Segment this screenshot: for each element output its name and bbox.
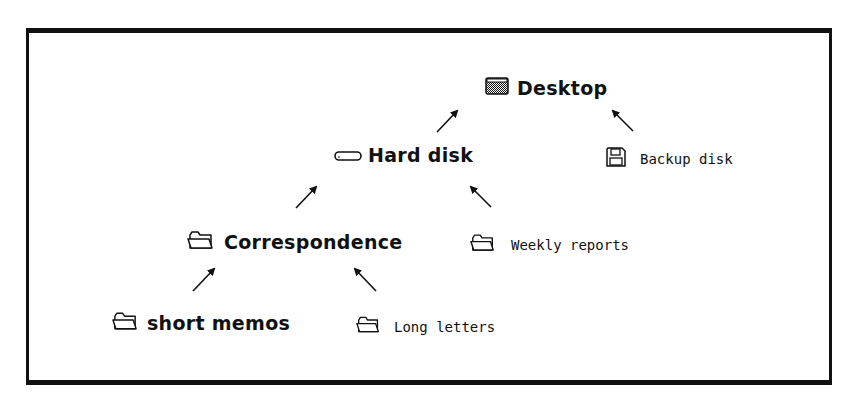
floppy-disk-icon — [606, 147, 626, 171]
node-correspondence[interactable]: Correspondence — [187, 231, 402, 253]
desktop-icon — [485, 77, 509, 99]
node-weekly-reports[interactable]: Weekly reports — [470, 234, 629, 255]
node-backup-disk[interactable]: Backup disk — [606, 147, 733, 171]
hard-disk-icon — [334, 146, 362, 165]
node-desktop[interactable]: Desktop — [485, 77, 607, 99]
node-label: Weekly reports — [511, 238, 629, 252]
node-long-letters[interactable]: Long letters — [356, 316, 495, 337]
node-label: short memos — [147, 314, 290, 333]
folder-icon — [187, 231, 215, 253]
node-label: Desktop — [517, 79, 607, 98]
node-label: Hard disk — [368, 146, 473, 165]
folder-icon — [470, 234, 496, 255]
node-label: Backup disk — [640, 152, 733, 166]
node-short-memos[interactable]: short memos — [112, 312, 290, 334]
node-hard-disk[interactable]: Hard disk — [334, 146, 473, 165]
node-label: Long letters — [394, 320, 495, 334]
folder-icon — [112, 312, 139, 334]
node-label: Correspondence — [224, 233, 402, 252]
folder-icon — [356, 316, 381, 337]
